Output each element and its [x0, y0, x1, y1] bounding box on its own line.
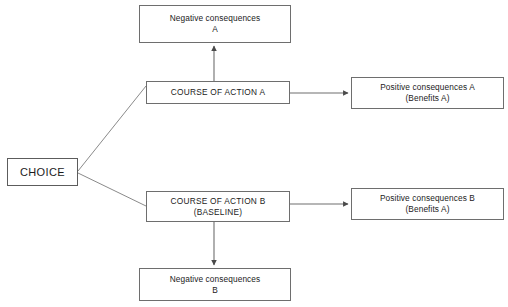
- node-positive-consequences-a-line2: (Benefits A): [405, 93, 449, 104]
- node-negative-consequences-b: Negative consequences B: [139, 268, 291, 301]
- node-choice: CHOICE: [7, 158, 78, 186]
- diagram-edges: [0, 0, 508, 307]
- node-positive-consequences-a-line1: Positive consequences A: [380, 82, 475, 93]
- node-positive-consequences-b-line2: (Benefits A): [405, 204, 449, 215]
- diagram-canvas: Negative consequences A COURSE OF ACTION…: [0, 0, 508, 307]
- node-positive-consequences-a: Positive consequences A (Benefits A): [351, 77, 504, 109]
- node-course-of-action-b-line2: (BASELINE): [194, 207, 243, 218]
- node-course-of-action-a: COURSE OF ACTION A: [146, 81, 290, 104]
- node-negative-consequences-a-line2: A: [212, 24, 218, 35]
- node-course-of-action-b: COURSE OF ACTION B (BASELINE): [146, 191, 290, 222]
- node-negative-consequences-a: Negative consequences A: [139, 5, 291, 43]
- node-choice-label: CHOICE: [20, 167, 65, 178]
- node-course-of-action-b-line1: COURSE OF ACTION B: [171, 196, 266, 207]
- node-positive-consequences-b-line1: Positive consequences B: [380, 193, 475, 204]
- node-negative-consequences-a-line1: Negative consequences: [170, 13, 261, 24]
- edge-choice-to-course-b: [78, 173, 146, 206]
- node-positive-consequences-b: Positive consequences B (Benefits A): [351, 188, 504, 220]
- node-negative-consequences-b-line2: B: [212, 285, 218, 296]
- node-negative-consequences-b-line1: Negative consequences: [170, 274, 261, 285]
- node-course-of-action-a-line1: COURSE OF ACTION A: [171, 87, 265, 98]
- edge-choice-to-course-a: [78, 86, 146, 171]
